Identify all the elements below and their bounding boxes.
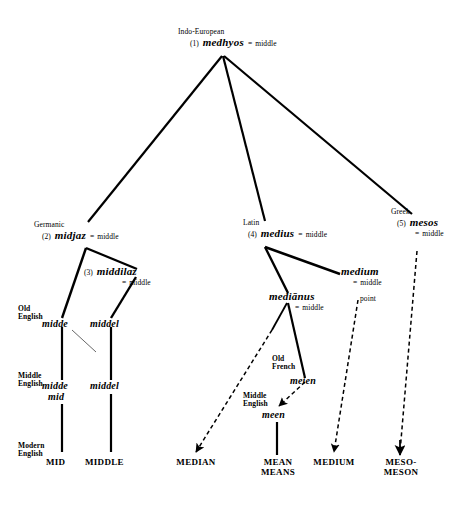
label-greek-number: (5) <box>397 220 406 228</box>
label-root-gloss: middle <box>255 40 276 48</box>
label-medianus-form: mediānus <box>269 291 324 303</box>
label-medianus-eq: = <box>295 304 299 312</box>
word-me-meen: meen <box>262 410 285 421</box>
terminal-median: MEDIAN <box>168 458 224 468</box>
label-latin-gloss: middle <box>306 231 327 239</box>
era-middle-english: Middle English <box>18 372 43 388</box>
terminal-medium: MEDIUM <box>306 458 362 468</box>
terminal-meso: MESO- MESON <box>373 458 429 477</box>
edge-root-to-germanic <box>88 56 222 222</box>
label-latin-number: (4) <box>248 231 257 239</box>
era-modern-english-line2: English <box>18 450 44 458</box>
edge-root-to-latin <box>223 56 265 221</box>
label-medium-gloss-2: point <box>360 294 376 303</box>
node-middilaz: (3) middilaz = middle <box>84 266 151 287</box>
label-germanic-form: midjaz <box>55 230 86 242</box>
era-middle-english-meen-line2: English <box>243 400 268 408</box>
label-root-form: medhyos <box>203 37 244 49</box>
era-old-french-line2: French <box>272 363 295 371</box>
label-germanic-number: (2) <box>42 233 51 241</box>
label-germanic-eq: = <box>90 233 94 241</box>
word-me-mid: mid <box>48 392 68 403</box>
label-root-eq: = <box>248 40 252 48</box>
edge-germanic-to-midde <box>62 248 86 318</box>
terminal-middle: MIDDLE <box>85 458 124 468</box>
era-middle-english-meen: Middle English <box>243 392 268 408</box>
terminal-mean-line2: MEANS <box>250 468 306 478</box>
word-oe-middel: middel <box>90 319 119 330</box>
label-medium-form: medium <box>341 266 382 278</box>
edge-root-to-greek <box>224 56 412 214</box>
label-greek-gloss: middle <box>422 230 443 238</box>
label-medianus-gloss: middle <box>302 304 323 312</box>
label-root-number: (1) <box>190 40 199 48</box>
label-latin-form: medius <box>261 228 295 240</box>
tree-connector-lines <box>0 0 470 507</box>
label-germanic-gloss: middle <box>97 233 118 241</box>
node-greek: Greek (5) mesos = middle <box>391 208 444 238</box>
node-germanic: Germanic (2) midjaz = middle <box>34 221 119 242</box>
label-middilaz-gloss: middle <box>129 279 150 287</box>
era-old-french: Old French <box>272 355 295 371</box>
edge-greek-to-meso-dashed <box>400 251 417 452</box>
label-latin-eq: = <box>298 231 302 239</box>
terminal-mid: MID <box>46 458 65 468</box>
label-greek: Greek <box>391 208 444 216</box>
terminal-median-line1: MEDIAN <box>168 458 224 468</box>
era-middle-english-line2: English <box>18 380 43 388</box>
word-of-meien: meien <box>290 376 316 387</box>
etymology-tree-diagram: Indo-European (1) medhyos = middle Germa… <box>0 0 470 507</box>
edge-medium-to-medium-dashed <box>334 300 358 452</box>
word-me-middel: middel <box>90 381 119 392</box>
label-medium-eq: = <box>353 279 357 287</box>
edge-midde-crossfeed-hairline <box>72 330 96 352</box>
label-greek-form: mesos <box>410 217 439 229</box>
era-old-english: Old English <box>18 305 43 321</box>
era-old-english-line2: English <box>18 313 43 321</box>
word-me-mid-group: midde mid <box>42 381 68 403</box>
node-indo-european: Indo-European (1) medhyos = middle <box>178 28 277 49</box>
node-latin: Latin (4) medius = middle <box>243 219 327 240</box>
era-modern-english: Modern English <box>18 442 44 458</box>
terminal-mean: MEAN MEANS <box>250 458 306 477</box>
label-indo-european: Indo-European <box>178 28 277 36</box>
label-middilaz-eq: = <box>122 279 126 287</box>
terminal-medium-line1: MEDIUM <box>306 458 362 468</box>
node-medianus: mediānus = middle <box>269 291 324 312</box>
label-middilaz-form: middilaz <box>97 266 137 278</box>
label-medium-gloss-1: middle <box>360 279 381 287</box>
label-greek-eq: = <box>415 230 419 238</box>
terminal-meso-line2: MESON <box>373 468 429 478</box>
word-oe-midde: midde <box>42 319 68 330</box>
label-middilaz-number: (3) <box>84 269 93 277</box>
node-medium-latin: medium = middle point <box>341 266 382 304</box>
label-latin: Latin <box>243 219 327 227</box>
label-germanic: Germanic <box>34 221 119 229</box>
